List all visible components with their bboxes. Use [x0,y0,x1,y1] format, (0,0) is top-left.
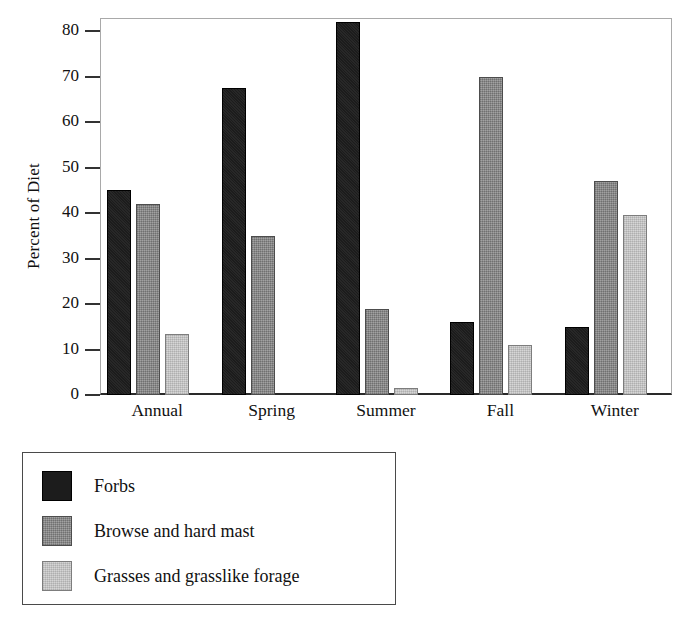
bar-group [214,18,328,395]
y-axis-tick-label: 50 [62,157,79,177]
y-axis-tick-mark [85,167,100,169]
y-axis-tick-mark [85,258,100,260]
y-axis-tick-mark [85,303,100,305]
bar [565,327,589,395]
y-axis-tick-mark [85,30,100,32]
bar-group [329,18,443,395]
bar-group [100,18,214,395]
y-axis-tick-label: 70 [62,66,79,86]
legend-swatch [42,471,72,501]
legend-item: Forbs [42,470,135,502]
y-axis-tick-mark [85,121,100,123]
x-axis-category-label: Spring [214,400,328,421]
legend-label: Browse and hard mast [94,521,254,542]
legend-label: Grasses and grasslike forage [94,566,299,587]
y-axis-tick-label: 0 [71,384,80,404]
bar [623,215,647,395]
bar-group [443,18,557,395]
y-axis-tick-mark [85,212,100,214]
bar [594,181,618,395]
bars-layer [100,18,672,395]
x-axis-category-label: Winter [558,400,672,421]
bar [508,345,532,395]
bar [251,236,275,395]
y-axis-tick-mark [85,349,100,351]
y-axis-tick-label: 20 [62,293,79,313]
legend-label: Forbs [94,476,135,497]
bar [479,77,503,396]
y-axis-tick-label: 30 [62,248,79,268]
x-axis-category-label: Summer [329,400,443,421]
legend-swatch [42,561,72,591]
y-axis-title: Percent of Diet [24,96,44,336]
x-axis-category-label: Fall [443,400,557,421]
legend-item: Grasses and grasslike forage [42,560,299,592]
x-axis-category-labels: AnnualSpringSummerFallWinter [100,400,672,428]
y-axis-tick-mark [85,394,100,396]
bar [365,309,389,395]
legend-item: Browse and hard mast [42,515,254,547]
y-axis-tick-label: 10 [62,339,79,359]
y-axis-tick-mark [85,76,100,78]
bar [394,388,418,395]
legend-swatch [42,516,72,546]
bar [450,322,474,395]
y-axis-tick-label: 60 [62,111,79,131]
bar [336,22,360,395]
bar-chart-figure: Percent of Diet 01020304050607080 Annual… [0,0,684,629]
y-axis-tick-label: 40 [62,202,79,222]
bar [136,204,160,395]
y-axis-tick-label: 80 [62,20,79,40]
x-axis-category-label: Annual [100,400,214,421]
bar [107,190,131,395]
bar [222,88,246,395]
bar [165,334,189,395]
chart-legend: ForbsBrowse and hard mastGrasses and gra… [22,452,396,605]
bar-group [558,18,672,395]
